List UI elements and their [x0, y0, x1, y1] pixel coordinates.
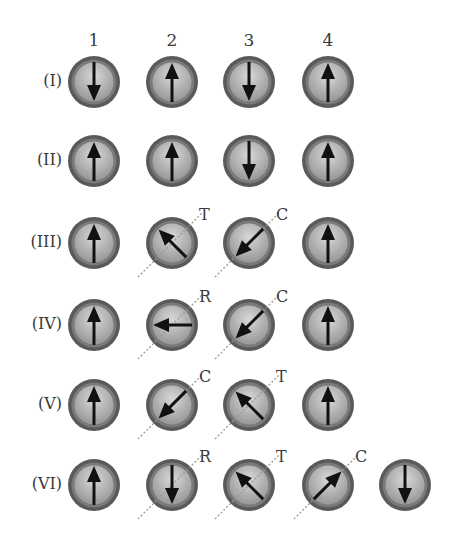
spin-circle-icon — [132, 121, 212, 201]
row-label: (II) — [2, 150, 62, 169]
row-label: (IV) — [2, 314, 62, 333]
spin-circle-icon — [288, 121, 368, 201]
spin-site — [209, 42, 289, 122]
spin-site — [288, 203, 368, 283]
spin-circle-icon — [54, 285, 134, 365]
spin-site — [54, 285, 134, 365]
spin-circle-icon — [288, 42, 368, 122]
spin-circle-icon — [54, 365, 134, 445]
label-cant: C — [276, 287, 288, 306]
spin-site — [54, 42, 134, 122]
row-label: (VI) — [2, 474, 62, 493]
spin-site — [209, 121, 289, 201]
spin-site — [288, 42, 368, 122]
spin-circle-icon — [365, 445, 445, 525]
spin-circle-icon — [209, 121, 289, 201]
spin-site — [54, 445, 134, 525]
label-cant: C — [276, 205, 288, 224]
spin-circle-icon — [132, 42, 212, 122]
spin-circle-icon — [288, 285, 368, 365]
label-twist: T — [276, 447, 287, 466]
spin-site — [54, 203, 134, 283]
spin-circle-icon — [54, 203, 134, 283]
spin-circle-icon — [209, 42, 289, 122]
row-label: (V) — [2, 394, 62, 413]
spin-circle-icon — [54, 42, 134, 122]
label-twist: T — [276, 367, 287, 386]
spin-site — [54, 121, 134, 201]
spin-site — [288, 365, 368, 445]
spin-circle-icon — [54, 445, 134, 525]
spin-site — [132, 121, 212, 201]
spin-site — [54, 365, 134, 445]
row-label: (III) — [2, 232, 62, 251]
spin-circle-icon — [54, 121, 134, 201]
spin-site — [288, 121, 368, 201]
spin-site — [288, 285, 368, 365]
spin-circle-icon — [288, 365, 368, 445]
spin-site — [132, 42, 212, 122]
row-label: (I) — [2, 71, 62, 90]
spin-site — [365, 445, 445, 525]
spin-circle-icon — [288, 203, 368, 283]
